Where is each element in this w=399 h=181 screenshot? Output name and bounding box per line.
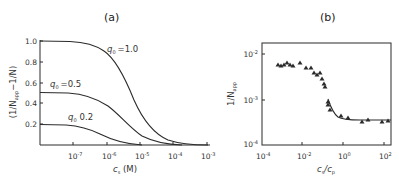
triangle-marker — [339, 114, 344, 118]
b-xtick-1e-4: 10-4 — [256, 151, 271, 161]
panel-b-y-label: 1/Napp — [226, 82, 238, 106]
triangle-marker — [322, 82, 327, 86]
a-ytick-0.8: 0.8 — [25, 58, 37, 67]
triangle-marker — [304, 66, 309, 70]
triangle-marker — [285, 61, 290, 65]
panel-b-frame — [262, 43, 391, 145]
triangle-marker — [298, 61, 303, 65]
triangle-marker — [318, 71, 323, 75]
figure: (a) 1.0 0.8 0.6 0.4 0.2 10-7 10-6 10-5 — [0, 0, 399, 181]
panel-a-title: (a) — [104, 11, 119, 24]
a-ytick-0.4: 0.4 — [25, 99, 37, 108]
panel-b-markers — [276, 61, 391, 124]
anno-q0-1.0: q0=1.0 — [107, 44, 138, 55]
a-ytick-0.2: 0.2 — [25, 120, 37, 129]
curve-q0-0.5 — [40, 93, 182, 146]
panel-b-title: (b) — [320, 11, 336, 24]
a-xtick-1e-6: 10-6 — [102, 151, 117, 161]
b-ytick-1e-3: 10-3 — [243, 95, 258, 105]
b-xtick-1e-2: 10-2 — [297, 151, 312, 161]
panel-a-x-label: cs (M) — [113, 164, 137, 175]
a-ytick-1.0: 1.0 — [25, 37, 37, 46]
panel-b-fit-line — [328, 99, 391, 120]
a-xtick-1e-4: 10-4 — [168, 151, 183, 161]
panel-a-y-label: (1/Napp−1/N) — [8, 66, 20, 118]
triangle-marker — [309, 66, 314, 70]
b-xtick-1e2: 102 — [379, 151, 392, 161]
b-ytick-1e-4: 10-4 — [243, 139, 258, 149]
a-xtick-1e-7: 10-7 — [68, 151, 83, 161]
panel-a: (a) 1.0 0.8 0.6 0.4 0.2 10-7 10-6 10-5 — [8, 11, 216, 175]
anno-q0-0.5: q0=0.5 — [50, 79, 81, 90]
b-xtick-1e0: 100 — [338, 151, 351, 161]
panel-b-x-label: cs/cp — [317, 164, 335, 176]
a-xtick-1e-5: 10-5 — [135, 151, 150, 161]
a-ytick-0.6: 0.6 — [25, 79, 37, 88]
a-xtick-1e-3: 10-3 — [201, 151, 216, 161]
triangle-marker — [320, 77, 325, 81]
curve-q0-0.2 — [40, 125, 142, 146]
panel-b: (b) 10-2 10-3 10-4 10-4 10-2 100 102 cs/… — [226, 11, 392, 176]
anno-q0-0.2: q00.2 — [68, 112, 93, 123]
triangle-marker — [312, 71, 317, 75]
b-ytick-1e-2: 10-2 — [243, 49, 258, 59]
triangle-marker — [346, 116, 351, 120]
